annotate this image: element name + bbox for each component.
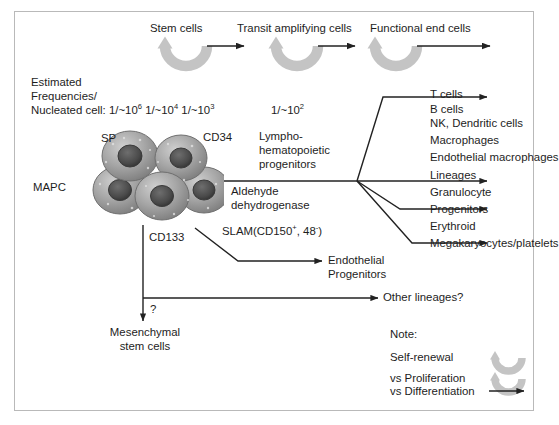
marker-label-sp: SP xyxy=(101,132,116,145)
output-cell-type: Lineages xyxy=(430,169,476,182)
frequencies-line-2: Frequencies/ xyxy=(31,90,97,103)
frequencies-prefix: Nucleated cell: xyxy=(31,104,109,116)
label-aldehyde-dehydrogenase-line: dehydrogenase xyxy=(231,199,341,213)
label-mesenchymal-stem-cells: Mesenchymalstem cells xyxy=(92,326,198,354)
label-aldehyde-dehydrogenase-line: Aldehyde xyxy=(231,185,341,199)
label-lympho-hematopoietic-progenitors-line: progenitors xyxy=(259,158,351,172)
frequencies-line-1: Estimated xyxy=(31,76,82,89)
output-cell-type: B cells xyxy=(430,103,464,116)
label-endothelial-progenitors-line: Endothelial xyxy=(328,254,418,268)
output-cell-type: Megakaryocytes/platelets xyxy=(430,237,559,250)
label-aldehyde-dehydrogenase: Aldehydedehydrogenase xyxy=(231,185,341,213)
label-lympho-hematopoietic-progenitors: Lympho-hematopoieticprogenitors xyxy=(259,130,351,172)
note-heading: Note: xyxy=(390,328,417,341)
note-item-proliferation: vs Proliferation xyxy=(390,372,465,385)
label-other-lineages: Other lineages? xyxy=(383,291,463,304)
label-mesenchymal-stem-cells-line: Mesenchymal xyxy=(92,326,198,340)
marker-label-mapc: MAPC xyxy=(33,181,66,194)
heading-transit-amplifying-cells: Transit amplifying cells xyxy=(237,22,352,35)
output-cell-type: Endothelial macrophages xyxy=(430,151,559,164)
heading-functional-end-cells: Functional end cells xyxy=(370,22,471,35)
label-endothelial-progenitors-line: Progenitors xyxy=(328,268,418,282)
frequency-value-2: 1/~104 xyxy=(145,104,178,116)
frequency-value-3: 1/~103 xyxy=(181,104,214,116)
label-lympho-hematopoietic-progenitors-line: Lympho- xyxy=(259,130,351,144)
output-cell-type: Erythroid xyxy=(430,220,476,233)
output-cell-type: Granulocyte xyxy=(430,186,491,199)
label-mesenchymal-stem-cells-line: stem cells xyxy=(92,340,198,354)
note-item-self-renewal: Self-renewal xyxy=(390,351,453,364)
output-cell-type: Progenitors xyxy=(430,203,488,216)
frequency-value-4: 1/~102 xyxy=(271,104,304,117)
label-lympho-hematopoietic-progenitors-line: hematopoietic xyxy=(259,144,351,158)
frequency-value-1: 1/~106 xyxy=(109,104,142,116)
frequencies-line-3: Nucleated cell: 1/~106 1/~104 1/~103 xyxy=(31,104,214,117)
marker-label-cd34: CD34 xyxy=(203,131,232,144)
label-endothelial-progenitors: EndothelialProgenitors xyxy=(328,254,418,282)
note-item-differentiation: vs Differentiation xyxy=(390,385,475,398)
marker-label-cd133: CD133 xyxy=(149,231,184,244)
output-cell-type: Macrophages xyxy=(430,134,499,147)
output-cell-type: T cells xyxy=(430,88,463,101)
label-slam-marker: SLAM(CD150+, 48-) xyxy=(222,225,322,238)
heading-stem-cells: Stem cells xyxy=(150,22,203,35)
output-cell-type: NK, Dendritic cells xyxy=(430,117,523,130)
label-question-mark: ? xyxy=(150,303,156,316)
